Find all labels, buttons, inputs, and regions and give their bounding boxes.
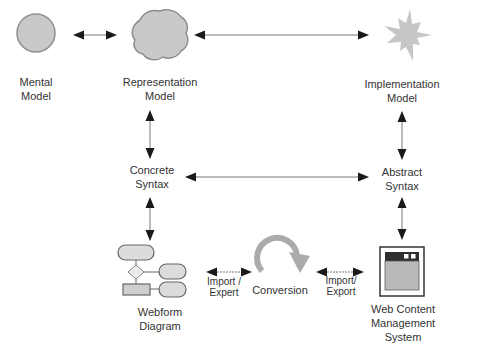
- arrow-mental-representation: [73, 31, 117, 40]
- webform-diagram-label: Webform Diagram: [138, 305, 182, 333]
- flowchart-node-bottom: [159, 282, 186, 297]
- arrow-concrete-abstract: [185, 173, 369, 182]
- representation-model-shape: [132, 10, 188, 60]
- flowchart-decision-diamond: [128, 265, 144, 279]
- mental-model-shape: [17, 14, 55, 52]
- arrow-representation-concrete: [146, 110, 155, 159]
- window-button: [411, 254, 416, 259]
- representation-model-label: Representation Model: [123, 75, 198, 103]
- window-content-area: [385, 261, 419, 290]
- wcms-window-icon: [380, 247, 424, 296]
- flowchart-node-top: [118, 245, 154, 260]
- implementation-model-shape: [384, 9, 432, 61]
- webform-diagram-icon: [118, 245, 186, 297]
- model-transformation-diagram: Mental Model Representation Model Implem…: [0, 0, 477, 350]
- window-button: [404, 254, 409, 259]
- flowchart-node-middle: [159, 264, 186, 279]
- import-export-edge-label: Import/ Export: [325, 275, 356, 297]
- arrow-representation-implementation: [194, 31, 369, 40]
- wcms-label: Web Content Management System: [366, 302, 440, 344]
- arrow-implementation-abstract: [398, 111, 407, 160]
- conversion-arrow-icon: [257, 238, 310, 273]
- flowchart-rect-node: [123, 284, 150, 295]
- abstract-syntax-label: Abstract Syntax: [382, 165, 422, 193]
- concrete-syntax-label: Concrete Syntax: [130, 163, 175, 191]
- arrow-abstract-wcms: [398, 197, 407, 240]
- mental-model-label: Mental Model: [19, 75, 52, 103]
- arrow-concrete-webform: [146, 197, 155, 241]
- import-expert-edge-label: Import / Expert: [207, 276, 241, 298]
- implementation-model-label: Implementation Model: [364, 77, 439, 105]
- conversion-label: Conversion: [252, 283, 308, 297]
